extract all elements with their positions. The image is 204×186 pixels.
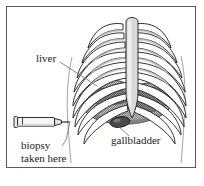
biopsy-needle-syringe — [14, 117, 70, 128]
leader-line-biopsy-2 — [62, 140, 66, 146]
label-gallbladder: gallbladder — [111, 134, 161, 146]
anatomy-illustration: liver gallbladder biopsy taken here — [0, 0, 204, 186]
label-biopsy-line1: biopsy — [21, 139, 51, 151]
label-liver: liver — [36, 52, 56, 64]
figure-root: liver gallbladder biopsy taken here — [0, 0, 204, 186]
label-biopsy-line2: taken here — [21, 152, 67, 164]
sternum — [126, 18, 138, 119]
body-outline-left — [67, 57, 72, 163]
